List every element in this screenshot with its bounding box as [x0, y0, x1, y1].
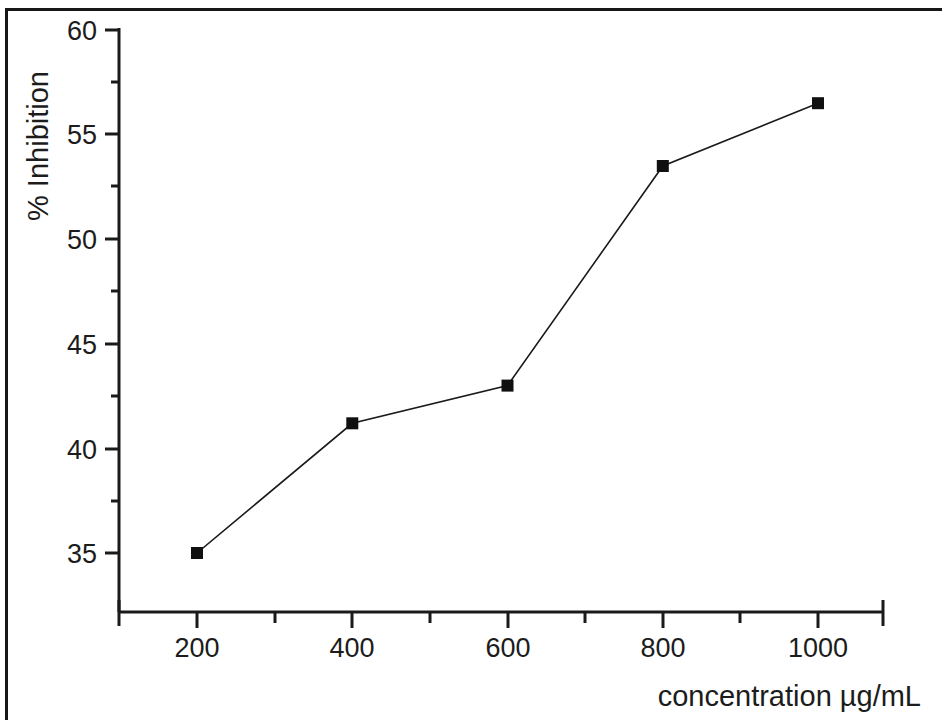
x-tick-label: 800: [640, 633, 685, 663]
data-point-marker: [812, 97, 824, 109]
y-tick-label: 35: [67, 539, 97, 569]
x-axis-major-ticks: [197, 612, 818, 628]
data-series-inhibition: [191, 97, 824, 559]
y-tick-label: 60: [67, 16, 97, 46]
x-tick-label: 1000: [788, 633, 848, 663]
y-tick-label: 55: [67, 120, 97, 150]
y-tick-label: 50: [67, 225, 97, 255]
series-line: [197, 103, 818, 553]
x-tick-label: 600: [485, 633, 530, 663]
x-axis-title: concentration µg/mL: [658, 680, 921, 712]
data-point-marker: [502, 380, 514, 392]
y-axis: 60 55 50 45 40 35 % Inhibition: [22, 16, 119, 612]
series-markers: [191, 97, 824, 559]
data-point-marker: [191, 547, 203, 559]
y-axis-title: % Inhibition: [22, 71, 54, 221]
data-point-marker: [346, 417, 358, 429]
data-point-marker: [657, 160, 669, 172]
line-chart: 60 55 50 45 40 35 % Inhibition: [0, 0, 942, 720]
y-tick-label: 45: [67, 330, 97, 360]
x-tick-label: 200: [174, 633, 219, 663]
x-tick-label: 400: [329, 633, 374, 663]
y-tick-label: 40: [67, 435, 97, 465]
x-axis: 200 400 600 800 1000 concentration µg/mL: [118, 600, 921, 712]
chart-page: 60 55 50 45 40 35 % Inhibition: [0, 0, 942, 720]
